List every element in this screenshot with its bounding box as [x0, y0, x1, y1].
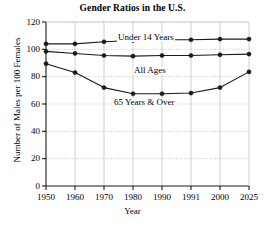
data-point-marker — [247, 70, 251, 74]
data-point-marker — [247, 52, 251, 56]
y-tick-label: 0 — [16, 182, 40, 191]
y-tick-label: 60 — [16, 100, 40, 109]
y-tick-label: 120 — [16, 18, 40, 27]
data-point-marker — [102, 86, 106, 90]
data-point-marker — [218, 53, 222, 57]
data-point-marker — [247, 37, 251, 41]
chart-figure: Gender Ratios in the U.S. Number of Male… — [0, 0, 265, 225]
y-tick-label: 20 — [16, 154, 40, 163]
x-tick-label: 1970 — [89, 193, 119, 202]
data-point-marker — [189, 38, 193, 42]
data-point-marker — [218, 37, 222, 41]
x-tick-label: 2000 — [205, 193, 235, 202]
x-tick-label: 1960 — [60, 193, 90, 202]
x-tick-label: 1950 — [31, 193, 61, 202]
data-point-marker — [102, 40, 106, 44]
series-label-1: Under 14 Years — [117, 33, 175, 42]
data-point-marker — [131, 92, 135, 96]
y-tick-label: 80 — [16, 72, 40, 81]
data-point-marker — [189, 91, 193, 95]
y-tick-label: 40 — [16, 127, 40, 136]
data-point-marker — [73, 42, 77, 46]
series-label-3: 65 Years & Over — [113, 98, 176, 107]
data-point-marker — [102, 53, 106, 57]
data-point-marker — [44, 42, 48, 46]
data-point-marker — [131, 54, 135, 58]
x-tick-label: 1980 — [118, 193, 148, 202]
x-tick-label: 1990 — [147, 193, 177, 202]
data-point-marker — [160, 53, 164, 57]
data-point-marker — [160, 92, 164, 96]
x-tick-label: 2025 — [234, 193, 264, 202]
series-label-2: All Ages — [133, 66, 167, 75]
x-tick-label: 1991 — [176, 193, 206, 202]
data-point-marker — [73, 51, 77, 55]
data-point-marker — [218, 86, 222, 90]
data-point-marker — [44, 62, 48, 66]
y-tick-label: 100 — [16, 45, 40, 54]
data-point-marker — [44, 49, 48, 53]
data-point-marker — [73, 70, 77, 74]
data-point-marker — [189, 53, 193, 57]
